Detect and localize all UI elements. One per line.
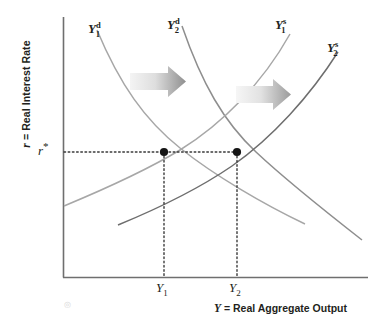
economics-supply-demand-figure: r = Real Interest Rate Y = Real Aggregat… (0, 0, 385, 324)
tick-label-y2-sub: 2 (236, 288, 241, 298)
equilibrium-dot-1 (160, 148, 168, 156)
y-axis-title-symbol: r (20, 143, 32, 148)
curve-label-y2s-sub: 2 (333, 48, 337, 58)
equilibrium-dot-2 (233, 148, 241, 156)
shift-arrow-demand-icon (130, 66, 186, 97)
x-axis-title-text: = Real Aggregate Output (221, 302, 347, 314)
tick-label-r-star: r* (38, 144, 49, 157)
curve-label-y2s: Ys2 (327, 41, 338, 54)
curve-label-y2d-base: Y (167, 17, 175, 32)
x-axis-title: Y = Real Aggregate Output (214, 302, 347, 314)
tick-label-y1: Y1 (156, 281, 168, 294)
curve-label-y1d-base: Y (88, 21, 96, 36)
curve-label-y2d: Yd2 (167, 18, 179, 31)
x-axis-title-symbol: Y (214, 302, 221, 314)
curve-label-y1d: Yd1 (88, 22, 100, 35)
curve-y1s (64, 34, 290, 206)
curve-label-y1d-sub: 1 (96, 29, 100, 39)
curve-label-y2d-sub: 2 (175, 25, 179, 35)
watermark-mark: ◎ (64, 300, 71, 309)
curve-label-y1s-sub: 1 (281, 25, 285, 35)
y-axis-title-text: = Real Interest Rate (20, 40, 32, 143)
tick-label-y2: Y2 (229, 281, 241, 294)
tick-label-y1-sub: 1 (163, 288, 168, 298)
shift-arrow-supply-icon (236, 79, 291, 110)
curve-label-y1s: Ys1 (275, 18, 286, 31)
tick-label-r-star-sup: * (43, 140, 49, 152)
y-axis-title: r = Real Interest Rate (20, 14, 32, 174)
